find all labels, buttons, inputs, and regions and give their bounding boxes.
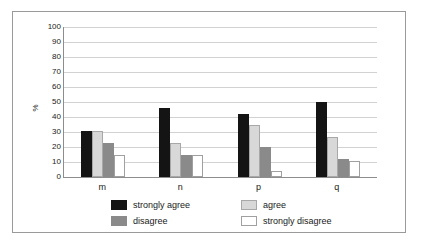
bar — [92, 131, 103, 178]
plot-wrapper: % 1009080706050403020100 mnpq strongly a… — [13, 12, 407, 234]
y-tick-label: 60 — [39, 83, 61, 91]
bar — [81, 131, 92, 178]
bar — [238, 114, 249, 177]
bar — [316, 102, 327, 177]
y-tick-label: 0 — [39, 173, 61, 181]
x-tick-label: q — [315, 182, 359, 192]
legend-swatch-icon — [241, 200, 257, 210]
legend-label: agree — [263, 200, 286, 210]
bar — [103, 143, 114, 178]
bar-group — [142, 27, 220, 177]
bar — [271, 171, 282, 177]
bar — [260, 147, 271, 177]
bar — [249, 125, 260, 178]
bar — [181, 155, 192, 178]
legend-item[interactable]: disagree — [111, 214, 168, 227]
x-tick-label: n — [158, 182, 202, 192]
chart-figure: % 1009080706050403020100 mnpq strongly a… — [12, 11, 406, 233]
legend-swatch-icon — [111, 216, 127, 226]
plot-area — [63, 27, 377, 178]
legend-item[interactable]: strongly agree — [111, 198, 190, 211]
y-tick-label: 80 — [39, 53, 61, 61]
y-tick-label: 100 — [39, 23, 61, 31]
x-tick-label: p — [237, 182, 281, 192]
y-tick-label: 90 — [39, 38, 61, 46]
legend-label: strongly agree — [133, 200, 190, 210]
legend-swatch-icon — [241, 216, 257, 226]
bar — [349, 161, 360, 178]
y-tick-label: 30 — [39, 128, 61, 136]
legend-item[interactable]: agree — [241, 198, 286, 211]
bar — [170, 143, 181, 178]
x-axis-tick-labels: mnpq — [63, 182, 376, 196]
y-tick-label: 70 — [39, 68, 61, 76]
chart-legend: strongly agreeagreedisagreestrongly disa… — [111, 198, 341, 228]
y-axis-tick-labels: 1009080706050403020100 — [39, 27, 61, 177]
y-tick-label: 20 — [39, 143, 61, 151]
bar-group — [221, 27, 299, 177]
y-tick-label: 40 — [39, 113, 61, 121]
x-tick-label: m — [80, 182, 124, 192]
y-tick-label: 10 — [39, 158, 61, 166]
bar — [338, 159, 349, 177]
bar — [192, 155, 203, 178]
bars-layer — [64, 27, 377, 177]
bar — [327, 137, 338, 178]
bar-group — [64, 27, 142, 177]
legend-item[interactable]: strongly disagree — [241, 214, 332, 227]
legend-swatch-icon — [111, 200, 127, 210]
legend-label: disagree — [133, 216, 168, 226]
y-tick-label: 50 — [39, 98, 61, 106]
bar — [159, 108, 170, 177]
legend-label: strongly disagree — [263, 216, 332, 226]
bar-group — [299, 27, 377, 177]
bar — [114, 155, 125, 178]
